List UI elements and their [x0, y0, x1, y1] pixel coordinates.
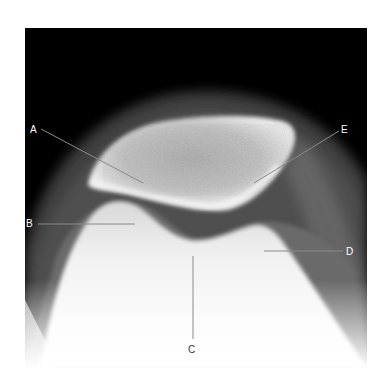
xray-figure [0, 0, 388, 390]
label-a: A [30, 125, 37, 135]
label-c: C [188, 345, 195, 355]
label-e: E [341, 125, 348, 135]
label-b: B [26, 219, 33, 229]
label-d: D [346, 247, 353, 257]
